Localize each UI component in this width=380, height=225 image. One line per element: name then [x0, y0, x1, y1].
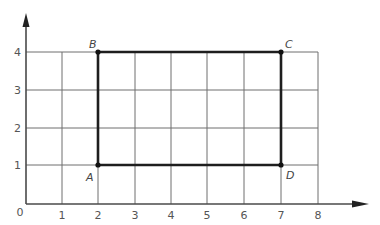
x-tick-labels: 1 2 3 4 5 6 7 8	[59, 209, 322, 222]
point-labels: A B C D	[85, 38, 294, 184]
label-b: B	[89, 38, 97, 51]
y-tick-3: 3	[14, 84, 21, 97]
y-tick-4: 4	[14, 46, 21, 59]
y-axis-arrow-icon	[23, 13, 30, 27]
origin-label: 0	[17, 206, 24, 219]
x-tick-6: 6	[241, 209, 248, 222]
grid	[26, 52, 318, 204]
x-tick-5: 5	[204, 209, 211, 222]
x-tick-4: 4	[168, 209, 175, 222]
x-tick-2: 2	[95, 209, 102, 222]
x-tick-8: 8	[315, 209, 322, 222]
label-a: A	[85, 171, 94, 184]
rectangle-abcd	[95, 49, 283, 167]
y-tick-labels: 1 2 3 4	[14, 46, 21, 172]
coordinate-grid-diagram: 1 2 3 4 5 6 7 8 1 2 3 4 0 A B C D	[0, 0, 380, 225]
y-tick-1: 1	[14, 159, 21, 172]
vertex-c	[278, 49, 283, 54]
vertex-d	[278, 162, 283, 167]
rectangle-outline	[98, 52, 281, 165]
x-axis-arrow-icon	[352, 201, 369, 208]
label-c: C	[285, 38, 293, 51]
x-tick-3: 3	[132, 209, 139, 222]
x-tick-1: 1	[59, 209, 66, 222]
y-tick-2: 2	[14, 122, 21, 135]
x-tick-7: 7	[278, 209, 285, 222]
vertex-a	[95, 162, 100, 167]
label-d: D	[286, 169, 294, 182]
axes	[23, 13, 370, 208]
